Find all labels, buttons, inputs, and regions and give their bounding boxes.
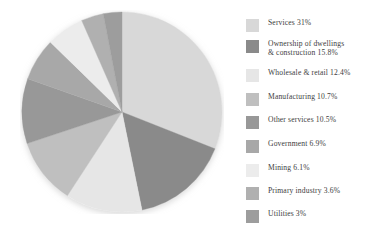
legend-swatch-mining: [246, 164, 259, 177]
legend-item-label: Services 31%: [268, 18, 382, 27]
legend-swatch-manufacturing: [246, 93, 259, 106]
legend-item[interactable]: Government 6.9%: [246, 139, 382, 153]
legend-item-label: Manufacturing 10.7%: [268, 92, 382, 101]
legend-item-label: Utilities 3%: [268, 209, 382, 218]
pie-slices-group: [22, 12, 222, 212]
legend-item-label: Other services 10.5%: [268, 115, 382, 124]
legend-swatch-wholesale-retail: [246, 69, 259, 82]
pie-chart-plot-area: [20, 10, 224, 214]
legend-swatch-other-services: [246, 116, 259, 129]
legend-item[interactable]: Ownership of dwellings & construction 15…: [246, 39, 382, 58]
legend-item-label: Mining 6.1%: [268, 163, 382, 172]
legend-item[interactable]: Manufacturing 10.7%: [246, 92, 382, 106]
legend-swatch-primary-industry: [246, 187, 259, 200]
legend-item-label: Government 6.9%: [268, 139, 382, 148]
legend-item[interactable]: Other services 10.5%: [246, 115, 382, 129]
legend-swatch-utilities: [246, 210, 259, 223]
legend-item[interactable]: Primary industry 3.6%: [246, 186, 382, 200]
legend-item-label: Primary industry 3.6%: [268, 186, 382, 195]
legend-item-label: Wholesale & retail 12.4%: [268, 68, 382, 77]
legend-item[interactable]: Services 31%: [246, 18, 382, 32]
legend-item[interactable]: Mining 6.1%: [246, 163, 382, 177]
legend-item[interactable]: Wholesale & retail 12.4%: [246, 68, 382, 82]
legend-swatch-government: [246, 140, 259, 153]
legend-item[interactable]: Utilities 3%: [246, 209, 382, 223]
chart-legend: Services 31%Ownership of dwellings & con…: [246, 8, 382, 224]
legend-item-label: Ownership of dwellings & construction 15…: [268, 39, 382, 58]
pie-chart-figure: Services 31%Ownership of dwellings & con…: [0, 0, 382, 228]
pie-chart-svg: [20, 10, 224, 214]
legend-swatch-services: [246, 19, 259, 32]
legend-swatch-ownership-of-dwellings-construction: [246, 40, 259, 53]
